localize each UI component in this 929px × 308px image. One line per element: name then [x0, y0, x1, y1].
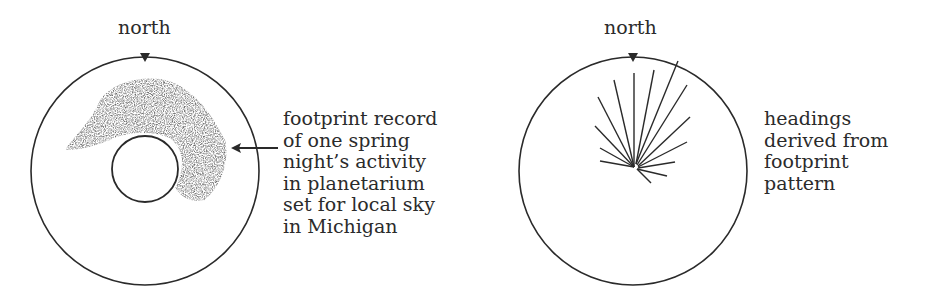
north-label-left: north [118, 16, 171, 38]
heading-lines [595, 61, 690, 183]
arrow-icon [231, 143, 278, 153]
headings-arena [519, 53, 747, 285]
headings-caption: headings derived from footprint pattern [764, 108, 888, 194]
footprint-arena [31, 53, 278, 285]
footprint-caption: footprint record of one spring night’s a… [283, 108, 437, 237]
north-label-right: north [604, 16, 657, 38]
